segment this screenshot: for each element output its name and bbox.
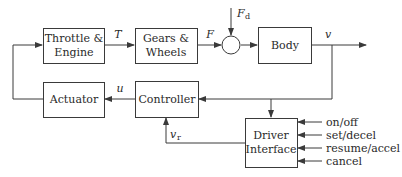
- wire-actuator-to-throttle: [13, 45, 43, 99]
- block-throttle-line2: Engine: [54, 46, 93, 59]
- block-throttle-line1: Throttle &: [45, 32, 104, 45]
- signal-disturbance-sub: d: [245, 12, 250, 21]
- signal-torque: T: [114, 28, 123, 41]
- summing-junction: [222, 36, 240, 54]
- block-controller-label: Controller: [138, 93, 196, 106]
- block-actuator: Actuator: [44, 83, 105, 118]
- driver-input-cancel: cancel: [326, 155, 362, 168]
- signal-velocity: v: [325, 28, 332, 41]
- block-actuator-label: Actuator: [49, 93, 99, 106]
- driver-input-resume-accel: resume/accel: [326, 142, 401, 155]
- signal-control: u: [116, 82, 123, 95]
- signal-reference: v: [170, 128, 177, 141]
- block-driver-interface: Driver Interface: [246, 119, 298, 168]
- driver-input-on-off: on/off: [326, 116, 359, 129]
- block-throttle-engine: Throttle & Engine: [44, 29, 105, 64]
- block-gears-line2: Wheels: [146, 46, 187, 59]
- block-driver-line2: Interface: [246, 143, 297, 156]
- block-gears-line1: Gears &: [143, 32, 189, 45]
- block-driver-line1: Driver: [253, 129, 289, 142]
- signal-force: F: [205, 28, 214, 41]
- block-controller: Controller: [136, 82, 199, 118]
- signal-reference-sub: r: [177, 133, 181, 142]
- driver-input-set-decel: set/decel: [326, 129, 377, 142]
- block-diagram: Throttle & Engine Gears & Wheels Body Ac…: [0, 0, 402, 177]
- block-gears-wheels: Gears & Wheels: [136, 29, 198, 64]
- block-body-label: Body: [271, 39, 300, 52]
- signal-disturbance: F: [236, 7, 245, 20]
- block-body: Body: [259, 28, 312, 64]
